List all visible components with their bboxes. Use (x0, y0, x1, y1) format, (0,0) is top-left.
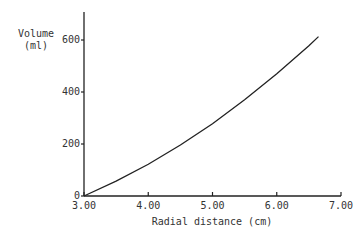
y-axis-label-line1: Volume (18, 28, 54, 39)
y-tick-label: 400 (62, 86, 80, 97)
y-tick-label: 0 (74, 190, 80, 201)
y-tick-label: 200 (62, 138, 80, 149)
x-tick-label: 3.00 (72, 200, 96, 211)
chart: 3.004.005.006.007.00 0200400600 Volume (… (0, 0, 361, 242)
axes (84, 12, 341, 196)
x-ticks: 3.004.005.006.007.00 (72, 192, 353, 211)
y-axis-label-line2: (ml) (24, 40, 48, 51)
x-tick-label: 6.00 (265, 200, 289, 211)
data-line (84, 37, 319, 196)
x-tick-label: 5.00 (200, 200, 224, 211)
x-tick-label: 4.00 (136, 200, 160, 211)
y-tick-label: 600 (62, 34, 80, 45)
y-ticks: 0200400600 (62, 34, 84, 201)
x-axis-label: Radial distance (cm) (152, 216, 272, 227)
x-tick-label: 7.00 (329, 200, 353, 211)
